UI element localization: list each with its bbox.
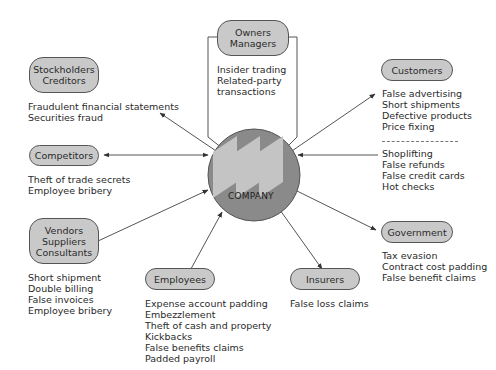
list-item: False loss claims xyxy=(290,298,369,309)
node-label: Competitors xyxy=(35,150,93,161)
government-arrow xyxy=(295,190,376,230)
list-item: False benefits claims xyxy=(145,342,271,353)
list-item: Double billing xyxy=(28,283,112,294)
list-item: Hot checks xyxy=(382,181,465,192)
company-label: COMPANY xyxy=(228,191,274,201)
list-item: False credit cards xyxy=(382,170,465,181)
list-item: Shoplifting xyxy=(382,148,465,159)
list-item: False refunds xyxy=(382,159,465,170)
node-label: Stockholders xyxy=(33,64,95,75)
employees-fraud-list: Expense account padding Embezzlement The… xyxy=(145,298,271,364)
list-item: Securities fraud xyxy=(28,112,179,123)
insurers-arrow xyxy=(280,210,322,269)
node-label: Insurers xyxy=(306,274,344,285)
list-item: Fraudulent financial statements xyxy=(28,101,179,112)
node-competitors: Competitors xyxy=(29,145,99,166)
list-item: Insider trading xyxy=(217,64,286,75)
list-item: False benefit claims xyxy=(382,272,487,283)
node-label: Owners xyxy=(235,27,271,38)
company-logo-icon xyxy=(213,136,283,198)
node-vendors-suppliers-consultants: Vendors Suppliers Consultants xyxy=(29,218,99,264)
list-item: Short shipment xyxy=(28,272,112,283)
node-owners-managers: Owners Managers xyxy=(217,20,289,56)
owners-connector xyxy=(286,37,297,148)
list-item: Contract cost padding xyxy=(382,261,487,272)
vendors-fraud-list: Short shipment Double billing False invo… xyxy=(28,272,112,316)
node-label: Customers xyxy=(391,65,442,76)
government-fraud-list: Tax evasion Contract cost padding False … xyxy=(382,250,487,283)
node-label: Creditors xyxy=(42,75,85,86)
list-item: Related-party xyxy=(217,75,286,86)
list-item: Theft of cash and property xyxy=(145,320,271,331)
list-item: False advertising xyxy=(382,88,472,99)
list-item: Employee bribery xyxy=(28,305,112,316)
owners-fraud-list: Insider trading Related-party transactio… xyxy=(217,64,286,97)
node-government: Government xyxy=(381,221,453,243)
stockholders-fraud-list: Fraudulent financial statements Securiti… xyxy=(28,101,179,123)
list-item: Expense account padding xyxy=(145,298,271,309)
node-label: Employees xyxy=(154,274,206,285)
customers-perpetrator-fraud-list: Shoplifting False refunds False credit c… xyxy=(382,148,465,192)
node-customers: Customers xyxy=(381,59,453,81)
list-item: Embezzlement xyxy=(145,309,271,320)
list-item: Short shipments xyxy=(382,99,472,110)
list-item: transactions xyxy=(217,86,286,97)
vendors-arrow xyxy=(98,190,208,241)
insurers-fraud-list: False loss claims xyxy=(290,298,369,309)
list-item: Employee bribery xyxy=(28,185,130,196)
customers-victim-fraud-list: False advertising Short shipments Defect… xyxy=(382,88,472,132)
node-label: Consultants xyxy=(36,247,92,258)
node-insurers: Insurers xyxy=(290,268,360,290)
node-stockholders-creditors: Stockholders Creditors xyxy=(29,57,99,93)
node-employees: Employees xyxy=(145,268,215,290)
list-item: False invoices xyxy=(28,294,112,305)
list-item: Padded payroll xyxy=(145,353,271,364)
node-label: Vendors xyxy=(45,225,83,236)
node-label: Government xyxy=(387,227,446,238)
list-item: Theft of trade secrets xyxy=(28,174,130,185)
list-item: Price fixing xyxy=(382,121,472,132)
node-label: Suppliers xyxy=(42,236,86,247)
customers-divider xyxy=(382,141,458,142)
list-item: Defective products xyxy=(382,110,472,121)
node-label: Managers xyxy=(230,38,277,49)
list-item: Tax evasion xyxy=(382,250,487,261)
customers-arrow-out xyxy=(286,94,375,155)
competitors-fraud-list: Theft of trade secrets Employee bribery xyxy=(28,174,130,196)
list-item: Kickbacks xyxy=(145,331,271,342)
